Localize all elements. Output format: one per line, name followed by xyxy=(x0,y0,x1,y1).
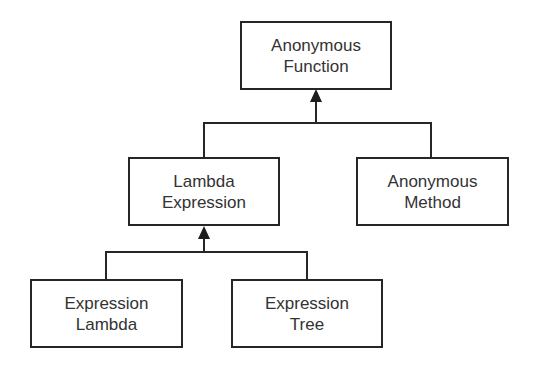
node-label-line1: Expression xyxy=(265,293,349,314)
node-label-line2: Expression xyxy=(162,192,246,213)
arrowhead-icon xyxy=(310,89,322,102)
node-label-line2: Method xyxy=(388,192,478,213)
node-anonymous-method: Anonymous Method xyxy=(356,157,509,226)
node-label-line1: Anonymous xyxy=(271,35,361,56)
upper-connector xyxy=(203,100,432,158)
node-label-line2: Tree xyxy=(265,314,349,335)
lower-connector xyxy=(105,237,308,280)
node-label-line1: Lambda xyxy=(162,171,246,192)
node-lambda-expression: Lambda Expression xyxy=(128,157,280,226)
node-label-line1: Anonymous xyxy=(388,171,478,192)
diagram-canvas: Anonymous Function Lambda Expression Ano… xyxy=(0,0,533,367)
node-anonymous-function: Anonymous Function xyxy=(240,21,392,90)
node-expression-tree: Expression Tree xyxy=(231,279,383,348)
node-label-line2: Lambda xyxy=(64,314,148,335)
node-label-line2: Function xyxy=(271,56,361,77)
node-expression-lambda: Expression Lambda xyxy=(30,279,183,348)
arrowhead-icon xyxy=(198,226,210,239)
node-label-line1: Expression xyxy=(64,293,148,314)
